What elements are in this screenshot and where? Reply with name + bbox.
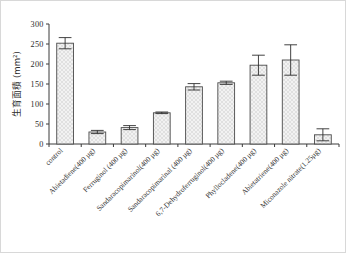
y-tick-label-0: 0 [39, 140, 43, 149]
bar-3 [153, 113, 170, 144]
bar-4 [186, 87, 203, 144]
bar-2 [121, 128, 138, 144]
y-axis-title: 生育面積 (mm²) [11, 51, 22, 117]
bar-5 [218, 83, 235, 144]
bar-6 [250, 65, 267, 144]
bar-0 [57, 43, 74, 144]
y-tick-label-250: 250 [31, 40, 44, 49]
bar-chart: 050100150200250300生育面積 (mm²)controlAbiet… [1, 1, 346, 253]
x-tick-label-0: control [43, 146, 64, 167]
x-tick-label-8: Miconazole nitrate(1.25µg) [258, 146, 322, 210]
y-tick-label-100: 100 [31, 100, 44, 109]
x-tick-label-4: Sandaracopimarinal (400 µg) [126, 146, 194, 214]
x-tick-label-3: Sandaracopimarinol(400 µg) [94, 146, 161, 213]
figure-container: 050100150200250300生育面積 (mm²)controlAbiet… [0, 0, 346, 253]
y-tick-label-50: 50 [35, 120, 44, 129]
y-tick-label-200: 200 [31, 60, 44, 69]
y-tick-label-300: 300 [31, 20, 44, 29]
y-tick-label-150: 150 [31, 80, 44, 89]
